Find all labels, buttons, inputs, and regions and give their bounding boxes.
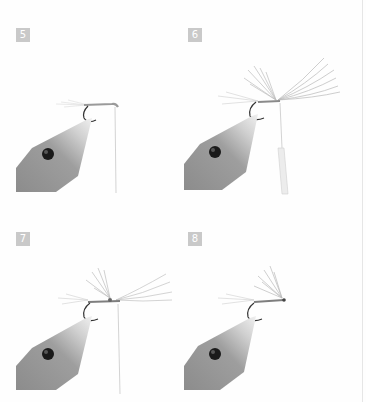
vise-screw-icon	[42, 148, 54, 160]
thread-line	[118, 304, 120, 394]
bobbin-holder	[278, 148, 288, 194]
step-8-photo	[178, 208, 350, 402]
hackle-feather	[278, 58, 340, 100]
vise-screw-icon	[209, 348, 221, 360]
step-panel-5: 5	[6, 8, 178, 204]
vise-screw-icon	[209, 146, 221, 158]
step-7-photo	[6, 208, 178, 402]
step-6-photo	[178, 8, 350, 204]
step-panel-6: 6	[178, 8, 350, 204]
tail-fibers	[56, 100, 88, 107]
step-panel-8: 8	[178, 208, 350, 402]
thread-line	[115, 107, 116, 193]
vise-jaw	[16, 316, 92, 390]
wing-fibers	[86, 268, 110, 298]
vise-jaw	[16, 118, 92, 192]
thread-line	[280, 103, 282, 148]
page-edge-divider	[362, 0, 363, 402]
step-5-photo	[6, 8, 178, 204]
wing-fibers	[244, 66, 276, 100]
wing-fibers	[254, 266, 282, 298]
step-panel-7: 7	[6, 208, 178, 402]
tail-fibers	[218, 92, 258, 104]
instruction-page: 5	[0, 0, 366, 402]
vise-screw-icon	[42, 348, 54, 360]
tail-fibers	[58, 294, 88, 304]
hackle-feather	[116, 274, 172, 301]
tail-fibers	[218, 294, 254, 304]
